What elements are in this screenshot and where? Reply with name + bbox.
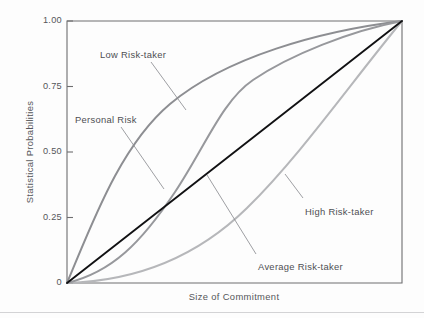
x-axis-title: Size of Commitment — [189, 291, 280, 302]
y-tick-label-025: 0.25 — [43, 212, 62, 222]
annotation-average-risk-taker: Average Risk-taker — [258, 261, 343, 272]
y-tick-label-050: 0.50 — [43, 146, 62, 156]
chart-figure: 1.00 0.75 0.50 0.25 0 Statistical Probab… — [0, 0, 424, 318]
chart-svg: 1.00 0.75 0.50 0.25 0 Statistical Probab… — [0, 0, 424, 318]
y-tick-label-075: 0.75 — [43, 81, 62, 91]
annotation-low-risk-taker: Low Risk-taker — [100, 49, 166, 60]
annotation-high-risk-taker: High Risk-taker — [305, 206, 374, 217]
y-axis-title: Statistical Probabilities — [24, 101, 35, 204]
y-tick-label-1: 1.00 — [43, 15, 62, 25]
annotation-personal-risk: Personal Risk — [75, 114, 137, 125]
y-tick-label-0: 0 — [57, 277, 62, 287]
figure-background — [0, 0, 424, 318]
